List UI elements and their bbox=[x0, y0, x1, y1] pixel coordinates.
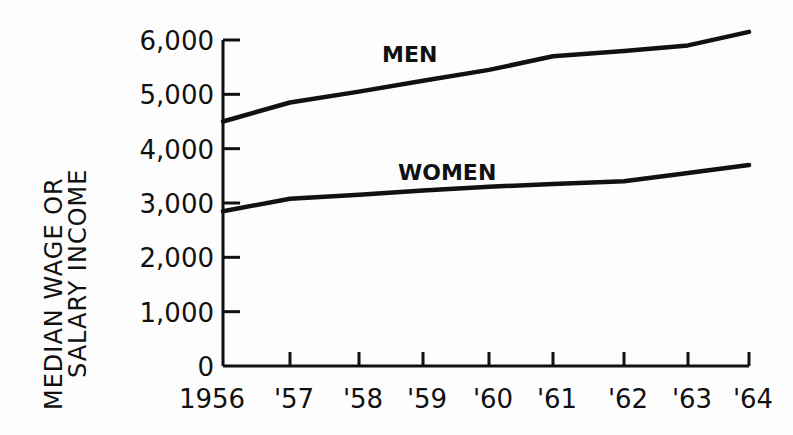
y-tick-label: 4,000 bbox=[140, 135, 214, 165]
y-axis: 01,0002,0003,0004,0005,0006,000 bbox=[140, 26, 240, 382]
y-tick-label: 2,000 bbox=[140, 243, 214, 273]
y-tick-label: 5,000 bbox=[140, 80, 214, 110]
x-tick-label: '57 bbox=[274, 384, 314, 414]
x-tick-label: '63 bbox=[672, 384, 712, 414]
y-tick-label: 6,000 bbox=[140, 26, 214, 56]
y-tick-label: 0 bbox=[197, 352, 214, 382]
y-axis-label: MEDIAN WAGE ORSALARY INCOME bbox=[40, 169, 92, 410]
series-lines: MENWOMEN bbox=[223, 32, 749, 211]
series-label-men: MEN bbox=[382, 42, 437, 67]
y-axis-label-line2: SALARY INCOME bbox=[64, 169, 92, 378]
series-label-women: WOMEN bbox=[398, 160, 496, 185]
x-tick-label: '58 bbox=[343, 384, 383, 414]
y-tick-label: 1,000 bbox=[140, 298, 214, 328]
y-tick-label: 3,000 bbox=[140, 189, 214, 219]
x-axis: 1956'57'58'59'60'61'62'63'64 bbox=[179, 352, 773, 414]
x-tick-label: '64 bbox=[733, 384, 773, 414]
x-tick-label: '60 bbox=[473, 384, 513, 414]
line-chart: MEDIAN WAGE ORSALARY INCOME 01,0002,0003… bbox=[0, 0, 793, 435]
x-tick-label: 1956 bbox=[179, 384, 245, 414]
series-line-men bbox=[223, 32, 749, 122]
x-tick-label: '59 bbox=[407, 384, 447, 414]
x-tick-label: '61 bbox=[537, 384, 577, 414]
x-tick-label: '62 bbox=[608, 384, 648, 414]
